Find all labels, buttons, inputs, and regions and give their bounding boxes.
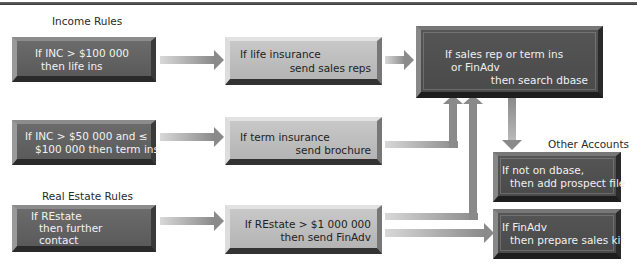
rule-text: then send FinAdv [280, 231, 371, 244]
rule-text: If REstate > $1 000 000 [245, 218, 371, 231]
rule-text: then add prospect file [510, 177, 625, 190]
rule-text: If sales rep or term ins [445, 48, 563, 61]
rule-text: send brochure [296, 144, 371, 157]
rule-text: If term insurance [240, 131, 330, 144]
rule-text: $100 000 then term ins [35, 143, 159, 156]
arrow-lifeins-to-search [385, 50, 414, 70]
rule-text: If INC > $100 000 [35, 47, 129, 60]
arrow-term-to-search [385, 95, 463, 148]
rule-box-term-insurance: If term insurance send brochure [225, 117, 382, 165]
rule-text: or FinAdv [451, 61, 500, 74]
rule-text: If not on dbase, [502, 164, 584, 177]
arrow-restate-to-restate1m [160, 211, 224, 231]
rule-text: If life insurance [240, 48, 321, 61]
rule-box-life-insurance: If life insurance send sales reps [225, 37, 382, 85]
rule-box-income-100k: If INC > $100 000 then life ins [12, 37, 156, 82]
rule-text: contact [39, 234, 78, 247]
rule-box-finadv-kit: If FinAdv then prepare sales kit [493, 209, 621, 259]
rule-box-restate-1m: If REstate > $1 000 000 then send FinAdv [225, 205, 382, 254]
arrow-search-to-notondbase [502, 98, 522, 150]
arrow-restate1m-to-finadv [385, 223, 494, 243]
rule-box-restate: If REstate then further contact [12, 205, 156, 252]
arrow-restate1m-to-search [385, 95, 483, 220]
rule-text: If FinAdv [502, 221, 547, 234]
rule-text: If INC > $50 000 and ≤ [25, 130, 148, 143]
rule-text: then prepare sales kit [510, 234, 625, 247]
arrow-income100k-to-lifeins [160, 50, 224, 70]
arrow-income50k-to-term [160, 127, 224, 147]
rule-text: send sales reps [290, 62, 371, 75]
rule-text: then search dbase [491, 74, 588, 87]
rule-text: then life ins [41, 60, 103, 73]
rule-box-income-50k: If INC > $50 000 and ≤ $100 000 then ter… [12, 120, 156, 165]
rule-box-not-on-dbase: If not on dbase, then add prospect file [493, 152, 621, 202]
rule-box-search-dbase: If sales rep or term ins or FinAdv then … [416, 26, 603, 98]
